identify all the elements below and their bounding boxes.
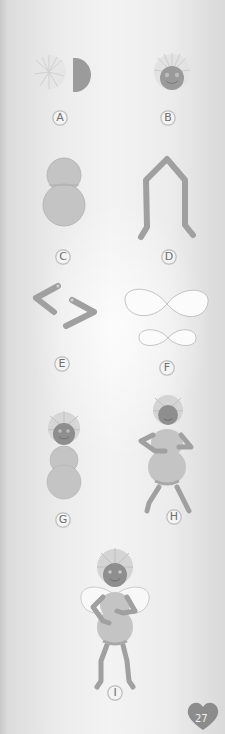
step-label-e: E <box>54 356 70 372</box>
finished-fairy-illustration <box>75 545 155 705</box>
face <box>160 66 184 90</box>
wings-illustration <box>122 282 217 352</box>
step-label-c: C <box>55 249 71 265</box>
hair-and-head-pieces-illustration <box>28 48 108 108</box>
step-e: E <box>30 282 105 387</box>
body-shape-illustration <box>40 155 90 235</box>
step-h: H <box>135 395 215 535</box>
legs-pipe-cleaner-illustration <box>135 155 205 245</box>
step-label-d: D <box>161 249 177 265</box>
face-with-hair-illustration <box>142 48 202 108</box>
step-label-a: A <box>52 110 68 126</box>
step-b: B <box>142 48 202 133</box>
step-d: D <box>135 155 205 265</box>
step-c: C <box>40 155 90 265</box>
step-label-g: G <box>55 512 71 528</box>
page-number-text: 27 <box>195 713 208 724</box>
hair-pompom <box>32 55 66 89</box>
figure-with-limbs-illustration <box>135 395 215 515</box>
arms-pipe-cleaner-illustration <box>30 282 105 342</box>
step-g: G <box>40 408 90 528</box>
step-i: I <box>75 545 155 705</box>
head-on-body-illustration <box>40 408 90 508</box>
step-label-f: F <box>159 360 175 376</box>
page-number-badge: 27 <box>185 700 225 730</box>
step-label-h: H <box>166 509 182 525</box>
step-a: A <box>28 48 108 133</box>
step-label-i: I <box>107 685 123 701</box>
half-circle-head <box>73 58 91 92</box>
step-f: F <box>122 282 217 387</box>
step-label-b: B <box>160 110 176 126</box>
